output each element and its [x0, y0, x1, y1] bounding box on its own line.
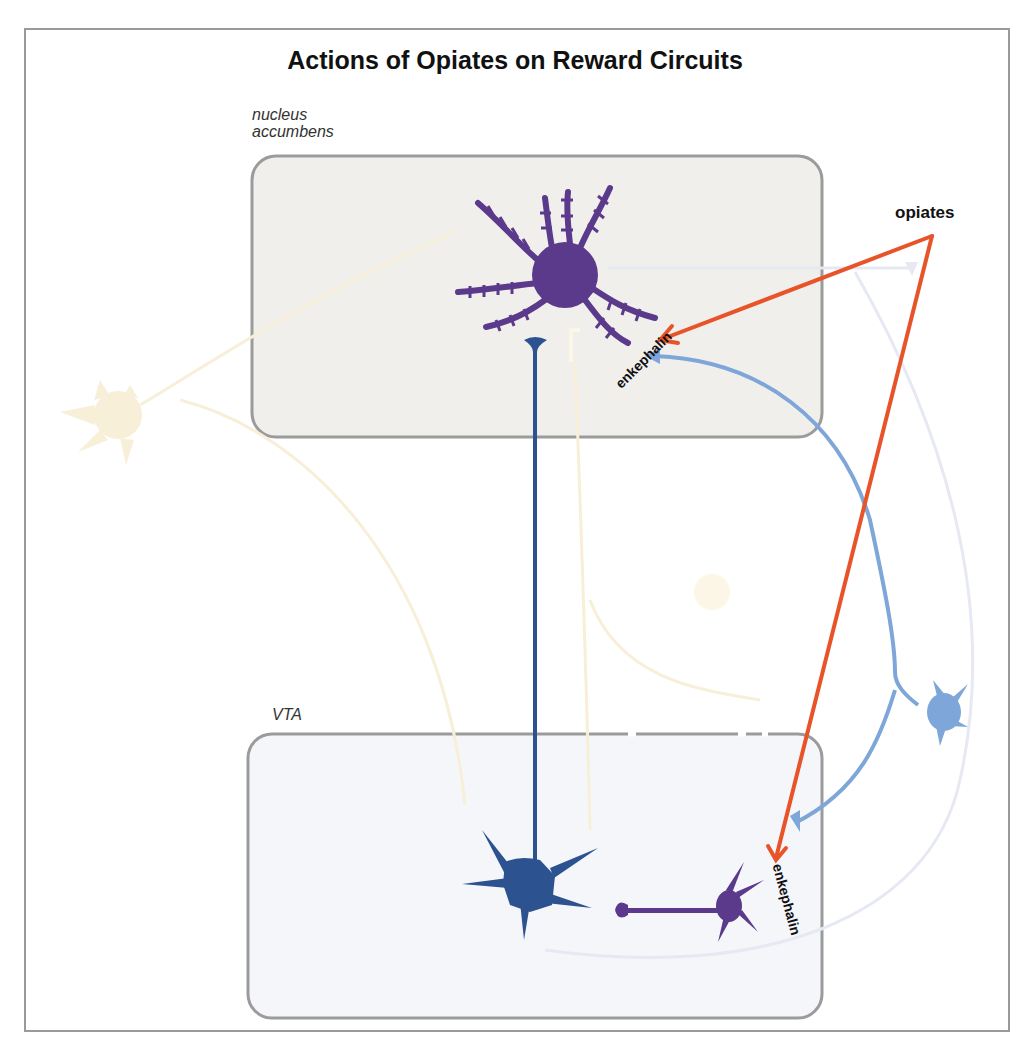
- opiates-label: opiates: [895, 203, 955, 223]
- circuit-diagram: [0, 0, 1030, 1045]
